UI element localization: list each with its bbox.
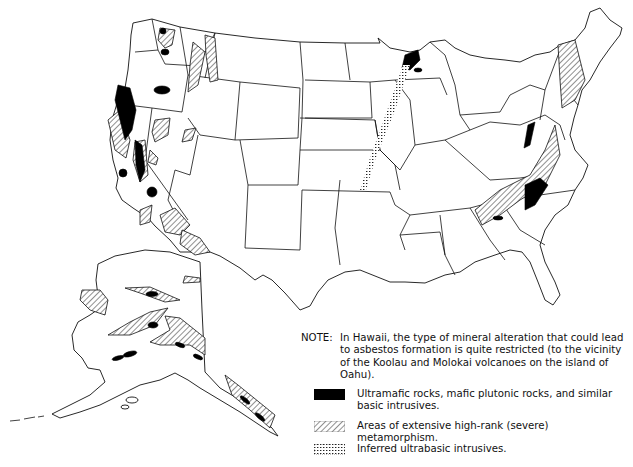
legend-item-ultramafic: Ultramafic rocks, mafic plutonic rocks, … xyxy=(314,388,627,413)
legend-label: Areas of extensive high-rank (severe) me… xyxy=(357,420,627,445)
legend-label: Inferred ultrabasic intrusives. xyxy=(357,443,627,455)
legend-item-metamorphism: Areas of extensive high-rank (severe) me… xyxy=(314,420,627,445)
alaska xyxy=(10,250,278,436)
solid-black-swatch-icon xyxy=(314,389,345,399)
hatch-swatch-icon xyxy=(314,421,345,431)
legend-item-inferred: Inferred ultrabasic intrusives. xyxy=(314,443,627,455)
note-label: NOTE: xyxy=(301,332,333,344)
stipple-swatch-icon xyxy=(314,444,345,454)
note-text: In Hawaii, the type of mineral alteratio… xyxy=(340,332,630,382)
legend-label: Ultramafic rocks, mafic plutonic rocks, … xyxy=(357,388,627,413)
